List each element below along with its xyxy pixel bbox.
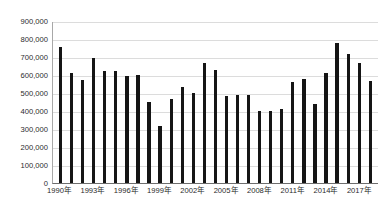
bar [302, 79, 305, 183]
x-axis-tick-label: 1990年 [47, 187, 72, 195]
bar-slot [365, 22, 376, 183]
bar-slot [166, 22, 177, 183]
bar-slot [221, 22, 232, 183]
bar [147, 102, 150, 183]
y-axis-tick-label: 400,000 [0, 108, 48, 116]
plot-area [52, 22, 378, 184]
x-axis-tick-label: 2011年 [281, 187, 305, 195]
y-axis-tick-label: 200,000 [0, 144, 48, 152]
bar-slot [99, 22, 110, 183]
x-axis-tick-label: 1993年 [80, 187, 105, 195]
bar [291, 82, 294, 183]
bar-slot [110, 22, 121, 183]
bar-slot [287, 22, 298, 183]
bar-slot [354, 22, 365, 183]
bar [280, 109, 283, 183]
bar [214, 70, 217, 183]
bar-slot [321, 22, 332, 183]
bar-slot [276, 22, 287, 183]
bar [369, 81, 372, 183]
y-axis-tick-label: 800,000 [0, 36, 48, 44]
y-axis-tick-label: 300,000 [0, 126, 48, 134]
bar-slot [265, 22, 276, 183]
bar [92, 58, 95, 183]
bar-series [53, 22, 378, 183]
x-axis-tick-label: 2017年 [347, 187, 372, 195]
x-axis-tick-label: 2002年 [180, 187, 205, 195]
bar [192, 93, 195, 183]
bar-slot [243, 22, 254, 183]
y-axis-tick-label: 500,000 [0, 90, 48, 98]
y-axis-tick-label: 900,000 [0, 18, 48, 26]
bar-slot [298, 22, 309, 183]
bar [136, 75, 139, 183]
bar [225, 96, 228, 183]
bar-slot [199, 22, 210, 183]
bar [335, 43, 338, 183]
bar [59, 47, 62, 183]
y-axis-tick-label: 100,000 [0, 162, 48, 170]
bar-slot [144, 22, 155, 183]
bar-slot [155, 22, 166, 183]
bar [70, 73, 73, 183]
x-axis-tick-label: 1996年 [114, 187, 139, 195]
bar-slot [309, 22, 320, 183]
bar-slot [343, 22, 354, 183]
bar-slot [232, 22, 243, 183]
bar-slot [132, 22, 143, 183]
y-axis-tick-label: 0 [0, 180, 48, 188]
bar [313, 104, 316, 183]
x-axis-tick-label: 2014年 [314, 187, 339, 195]
bar [170, 99, 173, 183]
bar [358, 63, 361, 183]
bar-slot [88, 22, 99, 183]
bar [347, 54, 350, 183]
bar-slot [77, 22, 88, 183]
x-axis: 1990年1993年1996年1999年2002年2005年2008年2011年… [52, 187, 378, 205]
bar [125, 76, 128, 183]
bar [247, 95, 250, 183]
y-axis-tick-label: 600,000 [0, 72, 48, 80]
bar-slot [254, 22, 265, 183]
bar [203, 63, 206, 183]
bar-slot [332, 22, 343, 183]
bar-slot [55, 22, 66, 183]
bar [236, 95, 239, 183]
bar [258, 111, 261, 183]
bar-slot [121, 22, 132, 183]
bar [81, 80, 84, 183]
bar [114, 71, 117, 183]
bar-chart: 900,000800,000700,000600,000500,000400,0… [0, 0, 384, 217]
bar-slot [188, 22, 199, 183]
bar [181, 87, 184, 183]
bar [158, 126, 161, 183]
bar-slot [66, 22, 77, 183]
bar-slot [210, 22, 221, 183]
bar [103, 71, 106, 183]
y-axis-tick-label: 700,000 [0, 54, 48, 62]
x-axis-tick-label: 2005年 [214, 187, 239, 195]
bar-slot [177, 22, 188, 183]
bar [269, 111, 272, 183]
bar [324, 73, 327, 183]
x-axis-tick-label: 2008年 [247, 187, 272, 195]
x-axis-tick-label: 1999年 [147, 187, 172, 195]
